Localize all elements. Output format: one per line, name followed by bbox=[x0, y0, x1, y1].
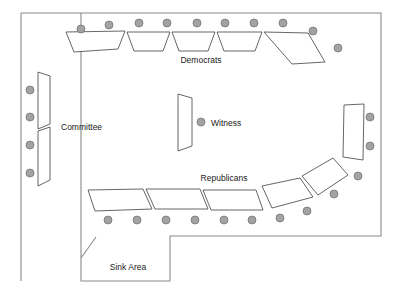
hearing-room-diagram: Sink Area Democrats bbox=[0, 0, 401, 301]
seat-dot bbox=[220, 216, 228, 224]
witness-label: Witness bbox=[211, 118, 241, 128]
seat-dot bbox=[26, 141, 34, 149]
seat-dot bbox=[276, 214, 284, 222]
seat-dot bbox=[248, 216, 256, 224]
seat-dot bbox=[26, 113, 34, 121]
committee-desk-group bbox=[38, 72, 50, 186]
seat-dot bbox=[191, 216, 199, 224]
republicans-desk-segment bbox=[262, 178, 313, 208]
seat-dot bbox=[163, 19, 171, 27]
seat-dot bbox=[105, 21, 113, 29]
seat-dot bbox=[162, 216, 170, 224]
witness-desk bbox=[178, 94, 192, 151]
sink-area-label: Sink Area bbox=[110, 262, 147, 272]
republicans-desk-segment bbox=[203, 190, 263, 210]
seat-dot bbox=[354, 172, 362, 180]
democrats-label: Democrats bbox=[180, 55, 221, 65]
seat-dot bbox=[250, 19, 258, 27]
seat-dot bbox=[303, 207, 311, 215]
republicans-desk-segment bbox=[343, 104, 364, 160]
seat-dot bbox=[26, 86, 34, 94]
seat-dot bbox=[366, 113, 374, 121]
committee-desk-segment bbox=[38, 72, 50, 129]
democrats-desk-segment bbox=[66, 31, 125, 52]
seat-dot bbox=[135, 19, 143, 27]
room-outline-group bbox=[21, 13, 381, 281]
sink-area-diagonal bbox=[81, 237, 96, 258]
seat-dot bbox=[193, 19, 201, 27]
democrats-desk-segment bbox=[264, 32, 325, 64]
seat-dot bbox=[366, 142, 374, 150]
committee-desk-segment bbox=[38, 127, 50, 186]
seat-dot bbox=[279, 19, 287, 27]
republicans-desk-segment bbox=[146, 189, 208, 209]
committee-label: Committee bbox=[61, 122, 102, 132]
seat-dot bbox=[334, 44, 342, 52]
witness-desk-group bbox=[178, 94, 205, 151]
seat-dot bbox=[26, 169, 34, 177]
committee-seats-group bbox=[26, 86, 34, 177]
room-wall-outline bbox=[21, 13, 381, 281]
seat-dot bbox=[104, 216, 112, 224]
republicans-desk-segment bbox=[88, 189, 152, 211]
seat-dot bbox=[309, 27, 317, 35]
democrats-desk-segment bbox=[172, 32, 215, 51]
seat-dot bbox=[197, 118, 205, 126]
sink-area-group: Sink Area bbox=[81, 237, 146, 272]
republicans-desk-segment bbox=[302, 158, 348, 195]
seat-dot bbox=[330, 190, 338, 198]
seat-dot bbox=[133, 216, 141, 224]
democrats-desk-segment bbox=[127, 32, 170, 51]
republicans-label: Republicans bbox=[201, 173, 248, 183]
democrats-desk-segment bbox=[217, 32, 262, 51]
seat-dot bbox=[221, 19, 229, 27]
seat-dot bbox=[77, 25, 85, 33]
